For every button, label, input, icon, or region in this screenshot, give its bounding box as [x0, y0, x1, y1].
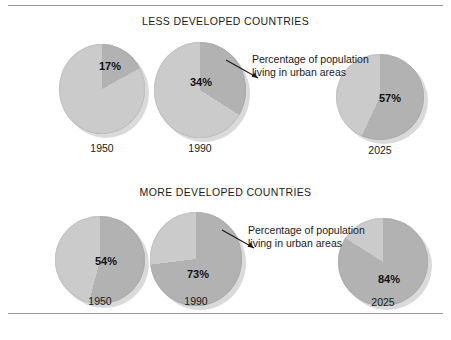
annotation-text-top: Percentage of population living in urban…	[252, 53, 372, 78]
pie-value-label-less-2025: 57%	[379, 92, 401, 104]
year-label-less-1990: 1990	[154, 142, 246, 154]
pie-group-less-1990: 34%	[154, 42, 250, 142]
frame-bottom-rule	[8, 313, 443, 314]
pie-group-less-1950: 17%	[59, 44, 149, 140]
year-label-less-1950: 1950	[59, 142, 145, 154]
year-label-less-2025: 2025	[336, 144, 424, 156]
panel-title-more-developed: MORE DEVELOPED COUNTRIES	[0, 186, 451, 198]
pie-chart-more-1990	[150, 212, 242, 306]
panel-title-less-developed: LESS DEVELOPED COUNTRIES	[0, 15, 451, 27]
annotation-text-bottom: Percentage of population living in urban…	[248, 224, 368, 249]
year-label-more-1950: 1950	[55, 295, 145, 307]
frame-top-rule	[8, 5, 443, 6]
year-label-more-1990: 1990	[150, 295, 242, 307]
pie-value-label-less-1990: 34%	[190, 76, 212, 88]
pie-value-label-more-2025: 84%	[378, 273, 400, 285]
year-label-more-2025: 2025	[338, 296, 428, 308]
figure-canvas: LESS DEVELOPED COUNTRIES 17% 1950 34% 19…	[0, 0, 451, 340]
pie-value-label-more-1950: 54%	[95, 255, 117, 267]
pie-value-label-more-1990: 73%	[187, 268, 209, 280]
pie-chart-less-1990	[154, 42, 246, 138]
pie-value-label-less-1950: 17%	[99, 60, 121, 72]
pie-chart-less-1950	[59, 44, 145, 134]
